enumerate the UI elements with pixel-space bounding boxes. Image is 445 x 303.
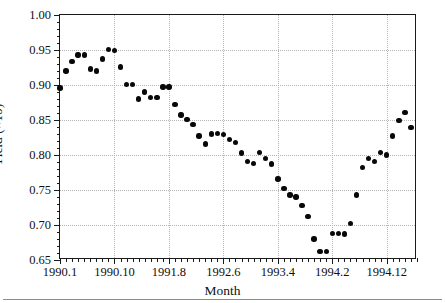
- data-point: [209, 131, 214, 136]
- x-axis-minor-tick: [151, 258, 152, 262]
- data-point: [82, 52, 87, 57]
- y-axis-minor-tick: [57, 183, 61, 184]
- data-point: [196, 133, 201, 138]
- plot-area: 0.650.700.750.800.850.900.951.001990.119…: [59, 14, 416, 259]
- data-point: [166, 84, 171, 89]
- gridline-horizontal: [60, 155, 415, 156]
- y-axis-minor-tick: [57, 253, 61, 254]
- data-point: [118, 64, 123, 69]
- x-axis-minor-tick: [145, 258, 146, 262]
- data-point: [263, 156, 268, 161]
- data-point: [354, 192, 359, 197]
- data-point: [233, 140, 238, 145]
- x-axis-minor-tick: [78, 258, 79, 262]
- y-axis-tick: [54, 15, 60, 16]
- y-axis-minor-tick: [57, 71, 61, 72]
- y-axis-minor-tick: [57, 113, 61, 114]
- y-axis-minor-tick: [57, 176, 61, 177]
- y-axis-tick: [54, 50, 60, 51]
- x-axis-minor-tick: [296, 258, 297, 262]
- y-axis-minor-tick: [57, 64, 61, 65]
- x-axis-minor-tick: [260, 258, 261, 262]
- x-axis-minor-tick: [163, 258, 164, 262]
- x-axis-minor-tick: [199, 258, 200, 262]
- x-axis-minor-tick: [356, 258, 357, 262]
- x-axis-minor-tick: [381, 258, 382, 262]
- y-axis-minor-tick: [57, 134, 61, 135]
- gridline-vertical: [332, 15, 333, 258]
- data-point: [57, 85, 62, 90]
- x-axis-minor-tick: [290, 258, 291, 262]
- x-axis-minor-tick: [157, 258, 158, 262]
- x-axis-minor-tick: [72, 258, 73, 262]
- x-axis-minor-tick: [205, 258, 206, 262]
- x-axis-minor-tick: [320, 258, 321, 262]
- data-point: [215, 131, 220, 136]
- data-point: [384, 152, 389, 157]
- data-point: [408, 125, 413, 130]
- data-point: [94, 68, 99, 73]
- gridline-vertical: [387, 15, 388, 258]
- data-point: [69, 59, 74, 64]
- x-axis-tick: [169, 258, 170, 264]
- x-axis-tick-label: 1994.2: [315, 266, 349, 279]
- y-axis-tick-label: 0.70: [29, 219, 51, 232]
- x-axis-tick: [223, 258, 224, 264]
- y-axis-tick: [54, 225, 60, 226]
- y-axis-minor-tick: [57, 218, 61, 219]
- gridline-vertical: [169, 15, 170, 258]
- x-axis-minor-tick: [405, 258, 406, 262]
- x-axis-minor-tick: [326, 258, 327, 262]
- y-axis-minor-tick: [57, 29, 61, 30]
- data-point: [221, 132, 226, 137]
- data-point: [269, 161, 274, 166]
- data-point: [178, 112, 183, 117]
- data-point: [184, 117, 189, 122]
- y-axis-minor-tick: [57, 36, 61, 37]
- data-point: [88, 66, 93, 71]
- y-axis-tick-label: 0.95: [29, 44, 51, 57]
- x-axis-minor-tick: [102, 258, 103, 262]
- x-axis-minor-tick: [175, 258, 176, 262]
- data-point: [360, 165, 365, 170]
- x-axis-minor-tick: [272, 258, 273, 262]
- data-point: [227, 137, 232, 142]
- data-point: [142, 89, 147, 94]
- gridline-horizontal: [60, 85, 415, 86]
- y-axis-title: Yield (×10): [0, 65, 6, 205]
- x-axis-minor-tick: [235, 258, 236, 262]
- x-axis-minor-tick: [133, 258, 134, 262]
- data-point: [330, 231, 335, 236]
- x-axis-minor-tick: [338, 258, 339, 262]
- data-point: [402, 110, 407, 115]
- x-axis-minor-tick: [211, 258, 212, 262]
- x-axis-tick-label: 1993.4: [261, 266, 295, 279]
- data-point: [245, 159, 250, 164]
- x-axis-tick-label: 1991.8: [152, 266, 186, 279]
- x-axis-tick: [332, 258, 333, 264]
- x-axis-tick-label: 1990.1: [43, 266, 77, 279]
- data-point: [251, 161, 256, 166]
- x-axis-tick: [387, 258, 388, 264]
- x-axis-minor-tick: [193, 258, 194, 262]
- y-axis-minor-tick: [57, 148, 61, 149]
- y-axis-minor-tick: [57, 106, 61, 107]
- y-axis-minor-tick: [57, 169, 61, 170]
- x-axis-minor-tick: [90, 258, 91, 262]
- y-axis-minor-tick: [57, 246, 61, 247]
- data-point: [281, 186, 286, 191]
- x-axis-minor-tick: [284, 258, 285, 262]
- data-point: [342, 231, 347, 236]
- x-axis-minor-tick: [363, 258, 364, 262]
- data-point: [154, 95, 159, 100]
- x-axis-minor-tick: [127, 258, 128, 262]
- y-axis-tick-label: 0.90: [29, 79, 51, 92]
- x-axis-tick: [60, 258, 61, 264]
- x-axis-minor-tick: [254, 258, 255, 262]
- x-axis-minor-tick: [308, 258, 309, 262]
- y-axis-minor-tick: [57, 92, 61, 93]
- data-point: [372, 159, 377, 164]
- data-point: [136, 96, 141, 101]
- y-axis-minor-tick: [57, 141, 61, 142]
- data-point: [311, 236, 316, 241]
